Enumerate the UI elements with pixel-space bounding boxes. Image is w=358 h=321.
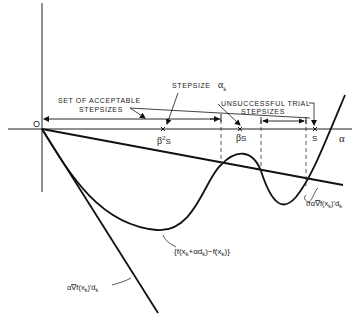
s-label: S xyxy=(312,134,317,143)
tangent-label: α∇f(xk)'dk xyxy=(67,283,99,293)
unsuccessful-label-line2: STEPSIZES xyxy=(241,108,285,115)
unsuccessful-arrowhead-right xyxy=(299,119,305,124)
diagram-canvas: O α β2S βS S STEPSIZE αk SET OF AC xyxy=(0,0,358,321)
tangent-label-pointer xyxy=(112,278,131,285)
origin-label: O xyxy=(33,119,40,129)
curve-label: {f(xk+αdk)−f(xk)} xyxy=(174,247,230,257)
sigma-label: σα∇f(xk)'dk xyxy=(306,199,342,209)
alpha-axis-label: α xyxy=(339,132,345,144)
function-curve xyxy=(42,95,345,230)
stepsize-label: STEPSIZE xyxy=(172,82,211,89)
unsuccessful-label-line1: UNSUCCESSFUL TRIAL xyxy=(221,100,310,107)
sigma-line xyxy=(42,129,343,185)
acceptable-pointer xyxy=(130,108,145,118)
unsuccessful-arrowhead-left xyxy=(262,119,268,124)
curve-label-pointer xyxy=(163,235,176,247)
beta2s-label: β2S xyxy=(157,134,171,146)
acceptable-label-line2: STEPSIZES xyxy=(79,106,123,113)
acceptable-label-line1: SET OF ACCEPTABLE xyxy=(58,97,141,104)
betas-label: βS xyxy=(236,132,246,143)
stepsize-symbol: αk xyxy=(218,79,226,92)
